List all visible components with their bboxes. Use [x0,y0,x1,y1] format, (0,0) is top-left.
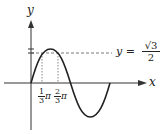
graph-canvas [0,0,161,134]
marker-pi-symbol: π [45,92,51,100]
fraction-numerator: √3 [142,40,160,52]
y-axis-label: y [27,3,34,17]
reference-line-lhs: y = [116,45,135,58]
reference-line-fraction: √3 2 [142,40,160,63]
x-axis-label: x [149,75,156,89]
x-axis-arrow-icon [138,80,147,86]
marker-pi-symbol: π [61,92,67,100]
marker-denominator: 3 [38,97,45,105]
x-marker-2pi-3: 2 3 [54,88,61,105]
fraction-denominator: 2 [142,52,160,63]
x-marker-pi-3: 1 3 [38,88,45,105]
marker-denominator: 3 [54,97,61,105]
y-axis-arrow-icon [28,20,34,28]
